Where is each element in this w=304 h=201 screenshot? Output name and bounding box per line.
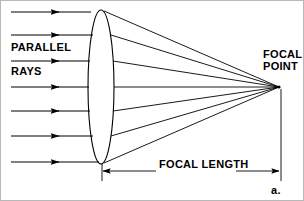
- refracted-ray-1: [104, 11, 279, 87]
- refracted-ray-6: [111, 87, 279, 136]
- refracted-ray-3: [113, 61, 279, 87]
- label-part-identifier: a.: [271, 184, 281, 196]
- refracted-converging-rays: [104, 11, 279, 163]
- label-focal-point-line2: POINT: [263, 60, 302, 72]
- optics-figure: PARALLEL RAYS FOCAL POINT FOCAL LENGTH a…: [0, 0, 304, 201]
- refracted-ray-7: [104, 87, 279, 163]
- incoming-parallel-rays: [11, 12, 99, 162]
- lens-ray-diagram: [1, 1, 304, 201]
- label-parallel-rays-line1: PARALLEL: [11, 41, 71, 53]
- label-focal-point-line1: FOCAL: [263, 48, 302, 60]
- convex-lens: [88, 10, 114, 164]
- focal-point-marker: [277, 85, 280, 88]
- label-focal-point: FOCAL POINT: [263, 48, 302, 72]
- refracted-ray-5: [113, 87, 279, 111]
- label-focal-length: FOCAL LENGTH: [159, 158, 249, 170]
- refracted-ray-2: [111, 35, 279, 87]
- label-parallel-rays-line2: RAYS: [11, 65, 42, 77]
